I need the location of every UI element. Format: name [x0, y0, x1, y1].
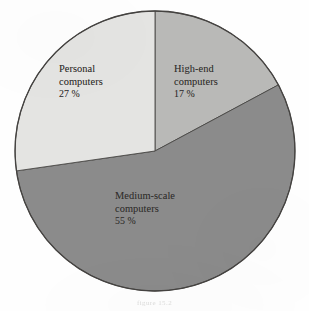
- pie-value-medium-scale-computers: 55 %: [115, 215, 175, 228]
- pie-label-medium-scale-computers: Medium-scale computers 55 %: [115, 190, 175, 228]
- pie-label-personal-computers-line1: Personal: [59, 63, 95, 74]
- pie-label-medium-scale-computers-line2: computers: [115, 203, 159, 214]
- pie-value-high-end-computers: 17 %: [174, 88, 218, 101]
- pie-label-medium-scale-computers-line1: Medium-scale: [115, 190, 175, 201]
- pie-value-personal-computers: 27 %: [59, 88, 103, 101]
- pie-label-high-end-computers-line2: computers: [174, 76, 218, 87]
- pie-label-personal-computers: Personal computers 27 %: [59, 63, 103, 101]
- pie-label-personal-computers-line2: computers: [59, 76, 103, 87]
- pie-label-high-end-computers-line1: High-end: [174, 63, 214, 74]
- pie-chart-figure: Personal computers 27 % High-end compute…: [0, 0, 309, 311]
- pie-label-high-end-computers: High-end computers 17 %: [174, 63, 218, 101]
- pie-chart-graphic: [0, 0, 309, 311]
- figure-caption-artifact: figure 15.2: [0, 299, 309, 307]
